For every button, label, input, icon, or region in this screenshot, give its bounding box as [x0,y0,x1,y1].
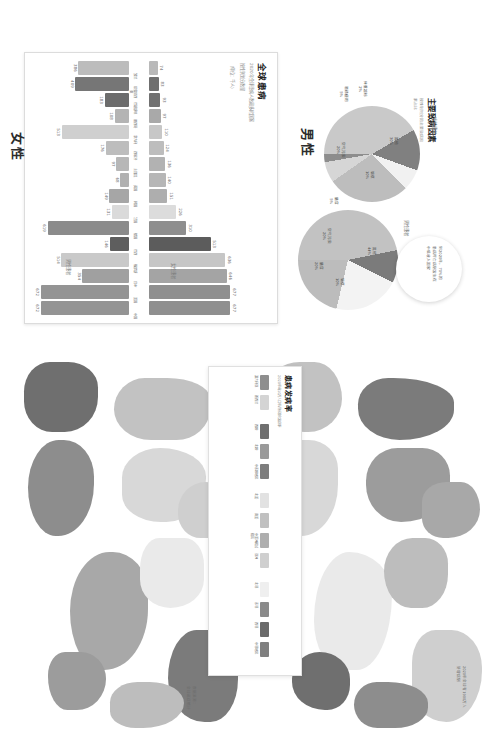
legend-swatch [260,582,269,597]
bar-value-label: 513 [212,240,216,248]
bar-item: 83 [149,77,241,91]
pie-slice-name: 烟草 [340,278,345,286]
bar-item: 108 [29,109,129,123]
bar-rect [75,77,129,91]
legend-swatch [260,553,269,568]
bar-value-label: 646 [228,272,232,280]
bar-rect [41,301,129,315]
bar-rect [149,237,211,251]
legend-item[interactable]: 东非 [249,602,269,617]
bar-category-label: 土耳其 [129,165,138,179]
legend-item[interactable]: 北欧 [249,444,269,459]
bar-rect [149,141,164,155]
bar-category-label: 中国 [129,309,138,323]
bar-category-label: 西班牙 [129,149,138,163]
pie-caption-male: 男性患者 [404,220,410,236]
bar-category-label: 俄罗斯 [129,261,138,275]
pie-slice-name: 膳食 [333,197,338,205]
bar-value-label: 97 [111,161,115,166]
bar-value-label: 97 [162,113,166,118]
legend-swatch [260,444,269,459]
callout-line-3: 中低收入国家 [424,246,430,270]
pie-chart-zone: 主要致病因素 按性别划分的主要致病因素占比 女性患者 男性患者 到2020年，7… [288,92,484,324]
legend-item[interactable]: 北美 [249,493,269,508]
bar-item: 97 [149,109,241,123]
bar-item: 310 [149,221,241,235]
bar-value-label: 110 [164,128,168,136]
bar-item: 136 [149,157,241,171]
pie-slice-label: 烟草10% [365,171,374,179]
legend-label: 北美 [253,493,257,508]
bar-value-label: 354 [77,272,81,280]
pie-slice-label: 酒精使用5% [338,86,347,102]
bar-value-label: 68 [115,177,119,182]
bar-value-label: 619 [42,224,46,232]
bar-rect [106,141,129,155]
map-region [140,538,204,608]
pie-slice-label: 其他30% [389,137,398,145]
pie-slice-label: 其他44% [367,247,376,255]
bar-rect [149,253,225,267]
bar-rect [112,205,129,219]
bar-rect [149,205,176,219]
bar-item: 513 [149,237,241,251]
bar-rect [105,93,129,107]
bar-category-label: 墨西哥 [129,117,138,131]
bar-item: 513 [29,125,129,139]
bar-category-label: 英国 [129,181,138,195]
legend-item[interactable]: 亚洲 [249,553,269,568]
pie-slice-name: 体重超标 [362,81,367,97]
legend-label: 澳大利亚 [253,375,257,390]
bar-value-label: 176 [100,144,104,152]
pie-chart-male [298,210,398,310]
bar-rect [62,125,129,139]
bar-item: 409 [29,77,129,91]
bar-value-label: 93 [162,97,166,102]
bar-chart-card: 全球患病 2020年全球患病人数最多的国家 按性别划分数量 （单位：千人） 74… [24,52,278,324]
legend-item[interactable]: 中东欧地区 [249,464,269,479]
legend-inner: 患病发病率 2020年每10万人口年龄标准化发病率 澳大利亚新西兰西欧北欧中东欧… [209,367,301,675]
bar-axis-caption-female: 女性患者 [171,263,177,279]
bar-value-label: 149 [104,192,108,200]
bar-item: 110 [149,125,241,139]
note-bottom-left: 数据来源： 全球癌症统计 [185,686,197,710]
pie-slice-value: 44% [367,247,372,255]
bar-rect [149,61,158,75]
legend-label: 西欧 [253,424,257,439]
note-bl-line-2: 全球癌症统计 [186,686,190,710]
bar-rect [149,173,166,187]
pie-slice-label: 体重超标2% [357,81,366,97]
legend-item[interactable]: 西非 [249,622,269,637]
bar-value-label: 409 [70,80,74,88]
bar-chart-subtitle-1: 2020年全球患病人数最多的国家 [248,63,254,122]
legend-item[interactable]: 中非地区 [249,642,269,657]
bar-item: 386 [29,61,129,75]
pie-slice-name: 空气污染 [326,228,331,244]
legend-item[interactable]: 中美洲和加勒比 [249,533,269,548]
bar-value-label: 672 [35,304,39,312]
bar-rect [120,173,129,187]
map-region [358,378,454,440]
legend-title: 患病发病率 [284,375,294,427]
bar-item: 151 [149,189,241,203]
pie-slice-value: 10% [335,278,340,286]
legend-groups: 澳大利亚新西兰西欧北欧中东欧地区北美南美中美洲和加勒比亚洲北非东非西非中非地区 [249,375,269,667]
bar-item: 619 [29,221,129,235]
legend-item[interactable]: 南美 [249,513,269,528]
legend-group: 北美南美中美洲和加勒比亚洲 [249,493,269,568]
legend-item[interactable]: 澳大利亚 [249,375,269,390]
map-region [384,538,448,608]
legend-subtitle: 2020年每10万人口年龄标准化发病率 [276,375,281,427]
legend-item[interactable]: 新西兰 [249,395,269,410]
bar-value-label: 124 [165,144,169,152]
bar-value-label: 74 [159,65,163,70]
legend-item[interactable]: 西欧 [249,424,269,439]
legend-item[interactable]: 北非 [249,582,269,597]
bar-item: 68 [29,173,129,187]
map-region [114,378,210,440]
bar-rect [149,157,165,171]
bar-series-male: 3864091831085131769768149131619146514354… [29,61,129,315]
bar-rect [48,221,129,235]
legend-card: 患病发病率 2020年每10万人口年龄标准化发病率 澳大利亚新西兰西欧北欧中东欧… [208,366,302,676]
pie-slice-name: 酒精使用 [343,86,348,102]
